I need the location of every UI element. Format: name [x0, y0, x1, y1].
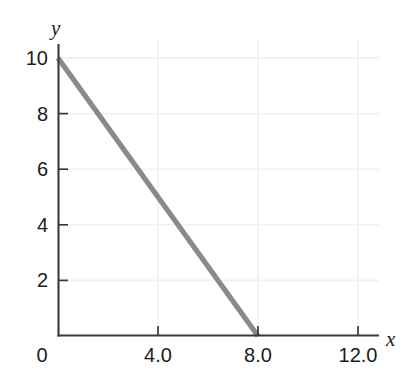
x-tick-label-12: 12.0 [339, 345, 378, 365]
x-tick-label-4: 4.0 [144, 345, 172, 365]
y-tick-label-8: 8 [10, 104, 48, 124]
line-chart: 10 8 6 4 2 0 4.0 8.0 12.0 y x [0, 0, 412, 390]
y-tick-label-6: 6 [10, 159, 48, 179]
x-tick-label-8: 8.0 [244, 345, 272, 365]
y-tick-label-2: 2 [10, 270, 48, 290]
x-tick-label-0: 0 [36, 345, 47, 365]
y-tick-label-4: 4 [10, 215, 48, 235]
y-axis-label: y [51, 18, 60, 39]
vertical-gridlines [158, 40, 358, 336]
y-tick-label-10: 10 [10, 48, 48, 68]
chart-plot-area [0, 0, 412, 390]
x-axis-label: x [386, 329, 395, 350]
horizontal-gridlines [58, 58, 379, 280]
